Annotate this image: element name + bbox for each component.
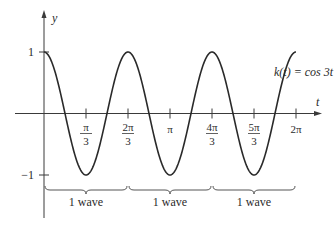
wave-braces: 1 wave1 wave1 wave — [45, 186, 295, 209]
x-tick-label: 2π — [290, 123, 302, 135]
brace-label: 1 wave — [69, 195, 103, 209]
y-tick-label: 1 — [28, 45, 34, 59]
function-label: k(t) = cos 3t — [274, 65, 334, 79]
axes: yt — [15, 10, 322, 218]
chart-canvas: yt 1−1π32π3π4π35π32π 1 wave1 wave1 wave … — [0, 0, 334, 226]
brace-icon — [213, 186, 295, 194]
x-axis-label: t — [316, 95, 320, 109]
cosine-chart: yt 1−1π32π3π4π35π32π 1 wave1 wave1 wave … — [0, 0, 334, 226]
x-tick-label-denominator: 3 — [251, 135, 257, 147]
x-tick-label-denominator: 3 — [125, 135, 131, 147]
x-tick-label-denominator: 3 — [209, 135, 215, 147]
y-axis-label: y — [51, 11, 58, 25]
x-tick-label-denominator: 3 — [83, 135, 89, 147]
x-axis-arrow-icon — [314, 111, 322, 116]
brace-icon — [45, 186, 127, 194]
x-tick-label: π — [167, 123, 173, 135]
brace-icon — [129, 186, 211, 194]
brace-label: 1 wave — [237, 195, 271, 209]
x-tick-label-numerator: 2π — [122, 121, 134, 133]
x-tick-label-numerator: 5π — [248, 121, 260, 133]
y-tick-label: −1 — [21, 168, 34, 182]
brace-label: 1 wave — [153, 195, 187, 209]
y-axis-arrow-icon — [42, 10, 47, 18]
x-tick-label-numerator: π — [83, 121, 89, 133]
x-tick-label-numerator: 4π — [206, 121, 218, 133]
